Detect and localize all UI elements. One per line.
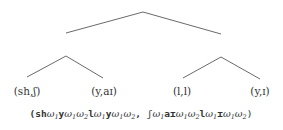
segment: sh <box>35 108 46 119</box>
segment: y <box>59 108 65 119</box>
omega-symbol: ω1 <box>94 108 106 119</box>
omega-symbol: ω1 <box>47 108 59 119</box>
tree-edge-right-sub-right <box>221 57 260 79</box>
omega-symbol: ω2 <box>188 108 200 119</box>
omega-symbol: ω2 <box>123 108 135 119</box>
segment: aɪ <box>164 108 175 119</box>
omega-symbol: ω1 <box>111 108 123 119</box>
omega-symbol: ω1 <box>64 108 76 119</box>
leaf-label-y-i: (y,ɪ) <box>250 85 269 97</box>
leaf-label-l: (l,l) <box>173 85 191 97</box>
omega-symbol: ω2 <box>235 108 247 119</box>
tree-edge-root-left <box>66 12 143 33</box>
omega-symbol: ω2 <box>76 108 88 119</box>
omega-symbol: ω1 <box>223 108 235 119</box>
alignment-expression: (shω1yω1ω2lω1yω1ω2, ʃω1aɪω1ω2lω1ɪω1ω2) <box>30 108 253 123</box>
tree-diagram: (sh,ʃ) (y,aɪ) (l,l) (y,ɪ) (shω1yω1ω2lω1y… <box>0 0 283 130</box>
tree-edge-right-sub-left <box>183 57 221 78</box>
tree-edge-root-right <box>143 12 221 34</box>
tree-edge-left-sub-right <box>66 56 103 78</box>
omega-symbol: ω1 <box>205 108 217 119</box>
omega-symbol: ω1 <box>152 108 164 119</box>
segment: l <box>200 108 206 119</box>
leaf-label-y-ai: (y,aɪ) <box>91 85 117 97</box>
tree-edge-left-sub-left <box>27 56 66 77</box>
leaf-label-sh: (sh,ʃ) <box>14 85 41 97</box>
omega-symbol: ω1 <box>176 108 188 119</box>
